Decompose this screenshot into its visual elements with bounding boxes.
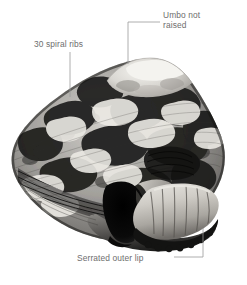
leader-line-umbo (128, 22, 160, 64)
annotation-label-spiral-ribs: 30 spiral ribs (34, 39, 83, 49)
annotation-label-umbo: Umbo not raised (163, 10, 200, 30)
annotation-label-outer-lip: Serrated outer lip (77, 253, 143, 263)
shell-annotated-figure: 30 spiral ribs Umbo not raised Serrated … (0, 0, 247, 285)
shell-outer-lip (133, 184, 219, 253)
